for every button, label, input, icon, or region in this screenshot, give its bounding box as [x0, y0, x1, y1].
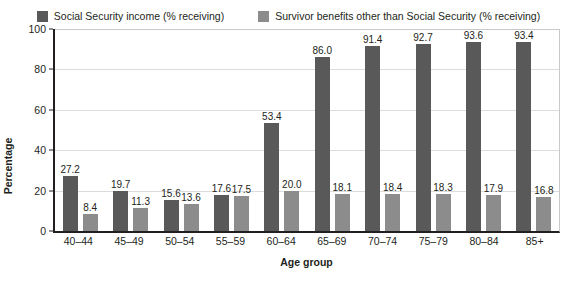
- bar-group: 15.613.6: [156, 29, 206, 231]
- bar-value-label: 17.6: [212, 183, 231, 194]
- bar-series-1[interactable]: [164, 200, 179, 232]
- bar-value-label: 17.5: [232, 184, 251, 195]
- bar-series-2[interactable]: [133, 208, 148, 231]
- legend-item-social-security-income: Social Security income (% receiving): [37, 10, 224, 22]
- bar-wrapper-series-2: 17.5: [234, 29, 249, 231]
- bar-value-label: 18.1: [333, 182, 352, 193]
- bar-group: 93.416.8: [509, 29, 559, 231]
- bar-wrapper-series-2: 18.4: [385, 29, 400, 231]
- bar-value-label: 17.9: [484, 183, 503, 194]
- bar-series-2[interactable]: [335, 194, 350, 231]
- bar-wrapper-series-2: 18.3: [436, 29, 451, 231]
- bar-value-label: 19.7: [111, 179, 130, 190]
- x-axis-tick-label: 70–74: [357, 235, 408, 255]
- legend-label-series-2: Survivor benefits other than Social Secu…: [275, 10, 540, 22]
- bar-value-label: 16.8: [534, 185, 553, 196]
- bar-value-label: 20.0: [282, 179, 301, 190]
- x-axis-tick-label: 50–54: [154, 235, 205, 255]
- x-axis-tick-label: 55–59: [205, 235, 256, 255]
- bar-series-1[interactable]: [466, 42, 481, 231]
- y-axis-title: Percentage: [2, 106, 14, 226]
- bar-series-2[interactable]: [83, 214, 98, 231]
- bar-series-2[interactable]: [436, 194, 451, 231]
- bar-series-2[interactable]: [184, 204, 199, 231]
- bar-wrapper-series-2: 8.4: [83, 29, 98, 231]
- bar-series-1[interactable]: [264, 123, 279, 231]
- bar-value-label: 86.0: [313, 45, 332, 56]
- bar-series-1[interactable]: [214, 195, 229, 231]
- bar-group: 17.617.5: [206, 29, 256, 231]
- bar-series-1[interactable]: [516, 42, 531, 231]
- bar-value-label: 53.4: [262, 111, 281, 122]
- y-axis: Percentage 020406080100: [0, 29, 53, 233]
- y-axis-tick-label: 0: [40, 225, 46, 237]
- bar-series-2[interactable]: [536, 197, 551, 231]
- bar-value-label: 93.4: [514, 30, 533, 41]
- bar-series-1[interactable]: [63, 176, 78, 231]
- bar-series-2[interactable]: [486, 195, 501, 231]
- bar-series-1[interactable]: [113, 191, 128, 231]
- bar-value-label: 27.2: [60, 164, 79, 175]
- bar-group: 19.711.3: [105, 29, 155, 231]
- bar-group: 86.018.1: [307, 29, 357, 231]
- bar-series-2[interactable]: [385, 194, 400, 231]
- bar-wrapper-series-1: 93.6: [466, 29, 481, 231]
- bar-group: 91.418.4: [357, 29, 407, 231]
- bar-wrapper-series-2: 18.1: [335, 29, 350, 231]
- bar-value-label: 15.6: [161, 188, 180, 199]
- bar-wrapper-series-1: 53.4: [264, 29, 279, 231]
- bar-value-label: 8.4: [83, 202, 97, 213]
- bar-value-label: 11.3: [131, 196, 150, 207]
- bar-wrapper-series-1: 92.7: [416, 29, 431, 231]
- x-axis-tick-label: 40–44: [53, 235, 104, 255]
- y-axis-tick-label: 60: [34, 104, 46, 116]
- x-axis-tick-label: 60–64: [256, 235, 307, 255]
- bar-group: 53.420.0: [257, 29, 307, 231]
- x-axis-tick-label: 45–49: [104, 235, 155, 255]
- x-axis-title: Age group: [53, 256, 560, 268]
- x-axis-tick-label: 75–79: [408, 235, 459, 255]
- bar-wrapper-series-1: 86.0: [315, 29, 330, 231]
- bar-value-label: 91.4: [363, 34, 382, 45]
- bar-wrapper-series-2: 11.3: [133, 29, 148, 231]
- bar-groups: 27.28.419.711.315.613.617.617.553.420.08…: [55, 29, 559, 231]
- x-axis-tick-label: 80–84: [459, 235, 510, 255]
- bar-wrapper-series-2: 20.0: [284, 29, 299, 231]
- y-axis-tick-label: 40: [34, 144, 46, 156]
- bar-chart-figure: Social Security income (% receiving) Sur…: [0, 0, 577, 298]
- x-axis-tick-label: 65–69: [307, 235, 358, 255]
- bar-wrapper-series-2: 16.8: [536, 29, 551, 231]
- bar-group: 92.718.3: [408, 29, 458, 231]
- bar-wrapper-series-1: 93.4: [516, 29, 531, 231]
- legend-item-survivor-benefits: Survivor benefits other than Social Secu…: [258, 10, 540, 22]
- y-axis-tick-label: 80: [34, 63, 46, 75]
- bar-wrapper-series-1: 19.7: [113, 29, 128, 231]
- bar-series-2[interactable]: [284, 191, 299, 231]
- bar-value-label: 18.4: [383, 182, 402, 193]
- bar-wrapper-series-1: 15.6: [164, 29, 179, 231]
- y-axis-tick-label: 20: [34, 185, 46, 197]
- bar-series-1[interactable]: [365, 46, 380, 231]
- legend-label-series-1: Social Security income (% receiving): [54, 10, 224, 22]
- bar-wrapper-series-2: 13.6: [184, 29, 199, 231]
- bar-series-1[interactable]: [416, 44, 431, 231]
- bar-group: 27.28.4: [55, 29, 105, 231]
- bar-value-label: 13.6: [181, 192, 200, 203]
- y-axis-tick-label: 100: [28, 23, 46, 35]
- bar-value-label: 18.3: [433, 182, 452, 193]
- legend-swatch-series-2: [258, 11, 269, 22]
- bar-wrapper-series-2: 17.9: [486, 29, 501, 231]
- bar-series-2[interactable]: [234, 196, 249, 231]
- legend-swatch-series-1: [37, 11, 48, 22]
- x-axis-tick-labels: 40–4445–4950–5455–5960–6465–6970–7475–79…: [53, 235, 560, 255]
- chart-legend: Social Security income (% receiving) Sur…: [0, 5, 577, 27]
- bar-value-label: 93.6: [464, 30, 483, 41]
- bar-wrapper-series-1: 17.6: [214, 29, 229, 231]
- bar-value-label: 92.7: [413, 32, 432, 43]
- x-axis-tick-label: 85+: [509, 235, 560, 255]
- plot-area: 27.28.419.711.315.613.617.617.553.420.08…: [53, 29, 560, 233]
- bar-group: 93.617.9: [458, 29, 508, 231]
- bar-wrapper-series-1: 91.4: [365, 29, 380, 231]
- bar-series-1[interactable]: [315, 57, 330, 231]
- bar-wrapper-series-1: 27.2: [63, 29, 78, 231]
